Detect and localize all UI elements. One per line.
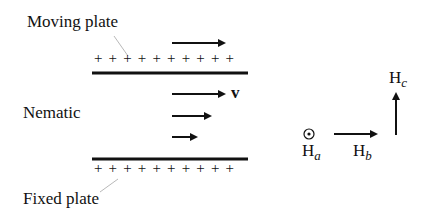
hb-label: Hb <box>353 141 372 161</box>
fixed-plate-label: Fixed plate <box>23 189 99 209</box>
fixed-plate-leader <box>100 179 118 192</box>
moving-plate-label: Moving plate <box>27 12 118 32</box>
nematic-label: Nematic <box>23 103 81 123</box>
bottom-plate-charges: + + + + + + + + + + <box>94 160 235 177</box>
top-plate-charges: + + + + + + + + + + <box>94 50 235 67</box>
velocity-label: v <box>231 83 240 103</box>
hc-label: Hc <box>389 68 407 88</box>
ha-label: Ha <box>302 141 321 161</box>
